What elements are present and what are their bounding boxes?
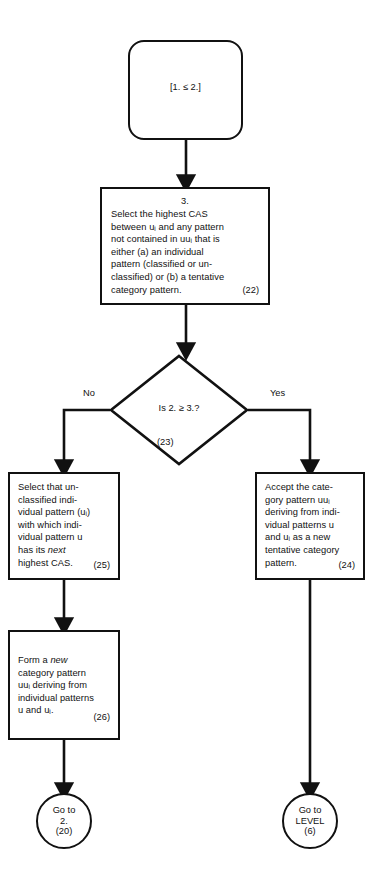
process-25-text-span: Select that un- classified indi- vidual … bbox=[18, 482, 90, 568]
process-24-ref: (24) bbox=[338, 559, 355, 572]
terminal-left-line3: (20) bbox=[56, 826, 73, 837]
process-25-ref: (25) bbox=[93, 559, 110, 572]
connector-decision-no bbox=[64, 410, 110, 468]
terminal-node-goto-level: Go to LEVEL (6) bbox=[282, 793, 338, 849]
terminal-left-line2: 2. bbox=[60, 816, 68, 827]
terminal-right-line2: LEVEL bbox=[296, 816, 325, 827]
process-24-text: Accept the cate- gory pattern uuᵢ derivi… bbox=[265, 481, 365, 569]
process-22-text: Select the highest CAS between uᵢ and an… bbox=[111, 208, 269, 296]
emphasised-word: new bbox=[50, 655, 67, 665]
terminal-node-goto-2: Go to 2. (20) bbox=[36, 793, 92, 849]
decision-23-text: Is 2. ≥ 3.? bbox=[108, 403, 250, 413]
flowchart-canvas: [1. ≤ 2.] 3. Select the highest CAS betw… bbox=[0, 0, 391, 871]
terminal-right-line3: (6) bbox=[304, 826, 315, 837]
process-26-ref: (26) bbox=[93, 711, 110, 724]
branch-label-no: No bbox=[83, 388, 95, 398]
process-node-22: 3. Select the highest CAS between uᵢ and… bbox=[100, 187, 270, 305]
process-node-24: Accept the cate- gory pattern uuᵢ derivi… bbox=[255, 472, 365, 580]
terminal-left-line1: Go to bbox=[53, 805, 76, 816]
start-node-text: [1. ≤ 2.] bbox=[130, 82, 241, 92]
connector-decision-yes bbox=[248, 410, 310, 468]
process-22-ref: (22) bbox=[242, 284, 259, 297]
process-26-text: Form a new category pattern uuᵢ deriving… bbox=[18, 654, 118, 717]
start-node: [1. ≤ 2.] bbox=[128, 40, 243, 140]
process-22-step-number: 3. bbox=[102, 195, 268, 208]
process-25-text: Select that un- classified indi- vidual … bbox=[18, 481, 118, 569]
process-node-26: Form a new category pattern uuᵢ deriving… bbox=[8, 630, 120, 740]
decision-node-23: Is 2. ≥ 3.? (23) bbox=[108, 353, 250, 467]
process-26-text-span: Form a new category pattern uuᵢ deriving… bbox=[18, 655, 94, 715]
process-node-25: Select that un- classified indi- vidual … bbox=[8, 472, 120, 580]
decision-23-ref: (23) bbox=[157, 437, 174, 447]
terminal-right-line1: Go to bbox=[299, 805, 322, 816]
emphasised-word: next bbox=[48, 545, 66, 555]
branch-label-yes: Yes bbox=[270, 388, 285, 398]
